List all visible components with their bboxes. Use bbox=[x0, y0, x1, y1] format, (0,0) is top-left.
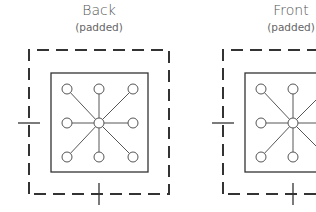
panel-back bbox=[18, 50, 169, 205]
panel-front bbox=[212, 50, 316, 205]
diagram-canvas bbox=[0, 0, 316, 212]
